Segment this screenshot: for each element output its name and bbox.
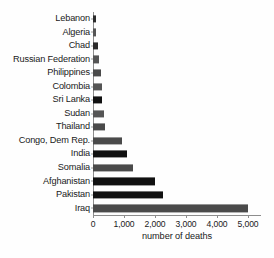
bar: [93, 96, 102, 103]
bar-category-label: Chad: [0, 41, 93, 51]
bar: [93, 56, 99, 63]
bar-category-label: Afghanistan: [0, 177, 93, 187]
x-axis-title: number of deaths: [93, 231, 261, 242]
bar-category-label: Iraq: [0, 204, 93, 214]
bar-row: Algeria: [0, 26, 274, 40]
bar: [93, 178, 155, 185]
bar-track: [93, 120, 274, 134]
bar: [93, 124, 105, 131]
bar-track: [93, 93, 274, 107]
bar-track: [93, 161, 274, 175]
x-tick-label: 2,000: [144, 219, 165, 229]
bar-track: [93, 80, 274, 94]
bar: [93, 151, 127, 158]
bar-row: Lebanon: [0, 12, 274, 26]
bar-track: [93, 202, 274, 216]
bar-track: [93, 188, 274, 202]
bar-track: [93, 107, 274, 121]
bar-row: Pakistan: [0, 188, 274, 202]
bar-category-label: Colombia: [0, 82, 93, 92]
x-tick-label: 5,000: [237, 219, 258, 229]
x-tick: 5,000: [248, 215, 249, 218]
bar-track: [93, 175, 274, 189]
bar-category-label: Congo, Dem Rep.: [0, 136, 93, 146]
bar-row: Philippines: [0, 66, 274, 80]
bar-track: [93, 12, 274, 26]
x-tick: 2,000: [155, 215, 156, 218]
bar-category-label: Sudan: [0, 109, 93, 119]
bar-row: Thailand: [0, 120, 274, 134]
bar: [93, 205, 248, 212]
bar-category-label: Sri Lanka: [0, 95, 93, 105]
bar-track: [93, 66, 274, 80]
bar-chart: LebanonAlgeriaChadRussian FederationPhil…: [0, 0, 274, 258]
bar-row: Russian Federation: [0, 53, 274, 67]
bar-category-label: India: [0, 149, 93, 159]
bar-category-label: Philippines: [0, 68, 93, 78]
bar: [93, 15, 96, 22]
bar-category-label: Lebanon: [0, 14, 93, 24]
x-tick: 4,000: [217, 215, 218, 218]
bar: [93, 29, 96, 36]
x-tick: 0: [93, 215, 94, 218]
bar: [93, 110, 104, 117]
bar-track: [93, 26, 274, 40]
bar-rows: LebanonAlgeriaChadRussian FederationPhil…: [0, 12, 274, 215]
bar-row: Iraq: [0, 202, 274, 216]
bar-track: [93, 53, 274, 67]
bar-category-label: Somalia: [0, 163, 93, 173]
x-tick-label: 4,000: [206, 219, 227, 229]
bar: [93, 83, 102, 90]
bar-category-label: Thailand: [0, 122, 93, 132]
bar-track: [93, 134, 274, 148]
bar-track: [93, 147, 274, 161]
bar-row: Colombia: [0, 80, 274, 94]
bar-category-label: Pakistan: [0, 190, 93, 200]
bar-row: Somalia: [0, 161, 274, 175]
bar-row: Sri Lanka: [0, 93, 274, 107]
bar: [93, 137, 122, 144]
bar-row: India: [0, 147, 274, 161]
bar-row: Congo, Dem Rep.: [0, 134, 274, 148]
bar-row: Sudan: [0, 107, 274, 121]
bar-category-label: Russian Federation: [0, 55, 93, 65]
x-tick-label: 1,000: [113, 219, 134, 229]
bar: [93, 191, 163, 198]
bar-track: [93, 39, 274, 53]
bar-row: Chad: [0, 39, 274, 53]
x-tick-label: 0: [91, 219, 96, 229]
bar: [93, 69, 101, 76]
x-tick-label: 3,000: [175, 219, 196, 229]
bar: [93, 164, 133, 171]
bar: [93, 42, 98, 49]
x-tick: 1,000: [124, 215, 125, 218]
bar-row: Afghanistan: [0, 175, 274, 189]
bar-category-label: Algeria: [0, 28, 93, 38]
plot-area: LebanonAlgeriaChadRussian FederationPhil…: [0, 0, 274, 258]
x-tick: 3,000: [186, 215, 187, 218]
